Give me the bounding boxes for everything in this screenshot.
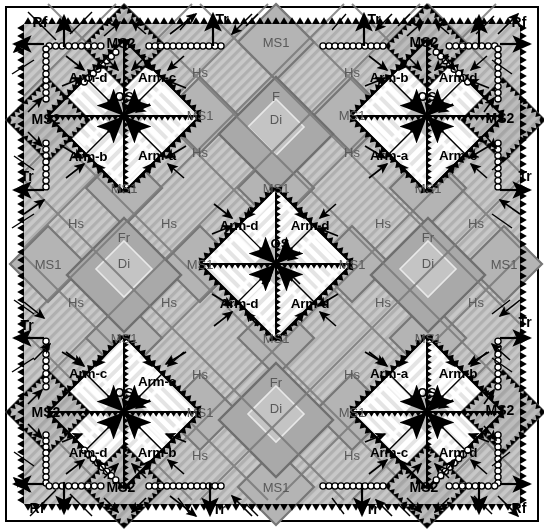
rift-bead xyxy=(350,483,356,489)
rift-bead xyxy=(466,43,472,49)
rift-bead xyxy=(368,43,374,49)
rift-bead xyxy=(43,77,49,83)
rift-bead xyxy=(152,43,158,49)
rift-bead xyxy=(194,483,200,489)
rift-bead xyxy=(485,43,491,49)
rift-bead xyxy=(182,483,188,489)
rift-bead xyxy=(176,483,182,489)
rift-bead xyxy=(356,43,362,49)
rift-bead xyxy=(85,43,91,49)
rift-bead xyxy=(164,43,170,49)
rift-bead xyxy=(374,483,380,489)
rift-bead xyxy=(218,43,224,49)
rift-bead xyxy=(380,483,386,489)
rift-bead xyxy=(492,483,498,489)
rift-bead xyxy=(43,71,49,77)
rift-bead xyxy=(320,483,326,489)
rift-bead xyxy=(158,43,164,49)
rift-bead xyxy=(43,377,49,383)
rift-bead xyxy=(53,43,59,49)
rift-bead xyxy=(43,52,49,58)
rift-bead xyxy=(495,171,501,177)
rift-bead xyxy=(495,444,501,450)
rift-bead xyxy=(188,483,194,489)
rift-bead xyxy=(326,43,332,49)
rift-bead xyxy=(200,43,206,49)
rift-bead xyxy=(495,384,501,390)
rift-bead xyxy=(495,140,501,146)
rift-bead xyxy=(91,483,97,489)
rift-bead xyxy=(98,43,104,49)
rift-bead xyxy=(43,450,49,456)
rift-bead xyxy=(495,377,501,383)
rift-bead xyxy=(459,43,465,49)
rift-bead xyxy=(374,43,380,49)
rift-bead xyxy=(43,358,49,364)
rift-bead xyxy=(495,96,501,102)
rift-bead xyxy=(446,43,452,49)
rift-bead xyxy=(206,43,212,49)
rift-bead xyxy=(433,477,439,483)
rift-bead xyxy=(43,165,49,171)
rift-bead xyxy=(43,178,49,184)
rift-bead xyxy=(495,474,501,480)
rift-bead xyxy=(164,483,170,489)
rift-bead xyxy=(194,43,200,49)
rift-bead xyxy=(53,483,59,489)
rift-bead xyxy=(65,483,71,489)
rift-bead xyxy=(43,83,49,89)
rift-bead xyxy=(72,43,78,49)
rift-bead xyxy=(495,83,501,89)
rift-bead xyxy=(43,384,49,390)
rift-bead xyxy=(43,58,49,64)
rift-bead xyxy=(98,483,104,489)
rift-bead xyxy=(495,432,501,438)
rift-bead xyxy=(43,432,49,438)
rift-bead xyxy=(332,43,338,49)
rift-bead xyxy=(368,483,374,489)
rift-bead xyxy=(453,483,459,489)
rift-bead xyxy=(43,364,49,370)
rift-bead xyxy=(466,483,472,489)
rift-bead xyxy=(495,71,501,77)
rift-bead xyxy=(472,483,478,489)
figure-canvas: MS1MS1MS1MS1MS1MS1MS1MS1MS1MS1MS1MS1MS1M… xyxy=(0,0,544,529)
rift-bead xyxy=(43,371,49,377)
rift-bead xyxy=(43,159,49,165)
rift-bead xyxy=(332,483,338,489)
rift-bead xyxy=(433,49,439,55)
rift-bead xyxy=(326,483,332,489)
rift-bead xyxy=(146,483,152,489)
rift-bead xyxy=(176,43,182,49)
rift-bead xyxy=(43,140,49,146)
rift-bead xyxy=(182,43,188,49)
rift-bead xyxy=(459,483,465,489)
rift-bead xyxy=(43,468,49,474)
rift-bead xyxy=(43,153,49,159)
rift-bead xyxy=(495,450,501,456)
rift-bead xyxy=(320,43,326,49)
rift-bead xyxy=(170,483,176,489)
rift-bead xyxy=(495,46,501,52)
rift-bead xyxy=(43,90,49,96)
rift-bead xyxy=(46,483,52,489)
rift-bead xyxy=(453,43,459,49)
rift-bead xyxy=(188,43,194,49)
diagram-svg xyxy=(0,0,544,529)
rift-bead xyxy=(380,43,386,49)
rift-bead xyxy=(446,483,452,489)
rift-bead xyxy=(85,483,91,489)
rift-bead xyxy=(43,146,49,152)
rift-bead xyxy=(200,483,206,489)
rift-bead xyxy=(344,483,350,489)
rift-bead xyxy=(218,483,224,489)
rift-bead xyxy=(43,474,49,480)
rift-bead xyxy=(158,483,164,489)
rift-bead xyxy=(113,49,119,55)
rift-bead xyxy=(43,171,49,177)
rift-bead xyxy=(78,483,84,489)
rift-bead xyxy=(472,43,478,49)
rift-bead xyxy=(350,43,356,49)
rift-bead xyxy=(43,96,49,102)
rift-bead xyxy=(78,43,84,49)
